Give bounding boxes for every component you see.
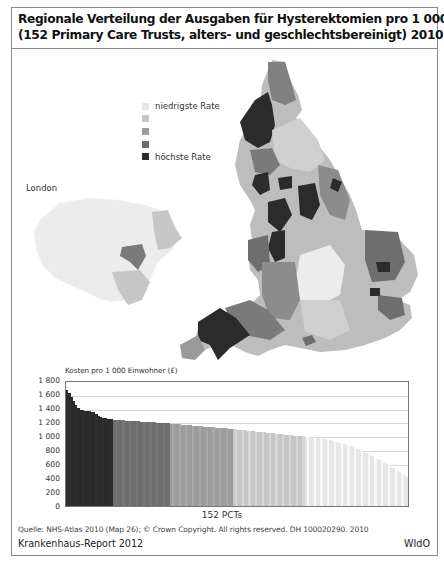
bar [320, 439, 322, 506]
bar [136, 421, 138, 506]
bar [226, 428, 228, 506]
y-tick-label: 1 000 [18, 432, 60, 441]
legend-item [142, 125, 220, 138]
bar [255, 432, 257, 506]
bar [354, 448, 356, 506]
bar [401, 474, 403, 506]
bar [307, 437, 309, 506]
bar [242, 430, 244, 506]
bar [334, 441, 336, 506]
legend-swatch-5 [142, 153, 149, 160]
legend-swatch-1 [142, 103, 149, 110]
bar [89, 411, 91, 506]
bar [192, 426, 194, 506]
bar [172, 424, 174, 506]
bar [185, 425, 187, 506]
bar [68, 393, 70, 506]
footer-publication: Krankenhaus-Report 2012 [18, 538, 143, 549]
bar [275, 434, 277, 506]
y-tick-label: 200 [18, 488, 60, 497]
bar [109, 419, 111, 506]
bar [129, 421, 131, 506]
bar-chart-plot [65, 381, 409, 507]
bar [82, 410, 84, 506]
bar [347, 446, 349, 506]
bar [75, 405, 77, 506]
bar [163, 423, 165, 506]
chart-y-title: Kosten pro 1 000 Einwohner (£) [65, 366, 178, 375]
bar [95, 414, 97, 506]
bar [143, 422, 145, 506]
legend-item: höchste Rate [142, 150, 220, 163]
bar [282, 434, 284, 506]
y-tick-label: 1 800 [18, 376, 60, 385]
bar [206, 427, 208, 506]
london-inset-label: London [26, 183, 57, 193]
bar [122, 420, 124, 506]
bar [179, 424, 181, 506]
legend-swatch-4 [142, 141, 149, 148]
legend-swatch-3 [142, 128, 149, 135]
bar [395, 469, 397, 506]
y-tick-label: 600 [18, 460, 60, 469]
bar [296, 436, 298, 506]
map-legend: niedrigste Rate höchste Rate [142, 100, 220, 163]
bar [341, 443, 343, 506]
bar [368, 454, 370, 506]
bar [156, 423, 158, 506]
bar [262, 432, 264, 506]
legend-item: niedrigste Rate [142, 100, 220, 113]
y-tick-label: 1 600 [18, 390, 60, 399]
bar [248, 431, 250, 506]
england-choropleth-map [0, 0, 444, 380]
bar [235, 429, 237, 506]
legend-label: niedrigste Rate [155, 101, 220, 111]
x-axis-label: 152 PCTs [0, 510, 444, 520]
legend-swatch-2 [142, 115, 149, 122]
y-tick-label: 800 [18, 446, 60, 455]
legend-label: höchste Rate [155, 152, 211, 162]
bar [116, 420, 118, 506]
y-tick-label: 1 400 [18, 404, 60, 413]
y-tick-label: 400 [18, 474, 60, 483]
bar [406, 477, 408, 506]
legend-item [142, 138, 220, 151]
bar [269, 433, 271, 506]
bar [314, 438, 316, 506]
legend-item [142, 113, 220, 126]
bar [302, 436, 304, 506]
y-tick-label: 1 200 [18, 418, 60, 427]
bar [361, 451, 363, 506]
source-note: Quelle: NHS-Atlas 2010 (Map 26); © Crown… [18, 525, 369, 534]
bar [388, 465, 390, 506]
bar [102, 418, 104, 506]
bar [381, 461, 383, 506]
bar [289, 435, 291, 506]
bar [149, 422, 151, 506]
footer-publisher: WIdO [404, 538, 430, 549]
bar [219, 428, 221, 506]
bar [374, 458, 376, 506]
bar-series [66, 382, 408, 506]
bar [327, 440, 329, 506]
bar [212, 427, 214, 506]
bar [199, 426, 201, 506]
